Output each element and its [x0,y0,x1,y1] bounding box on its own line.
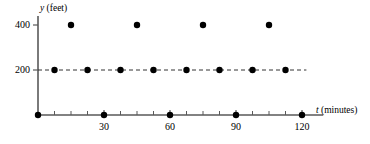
data-point [117,67,123,73]
data-point [216,67,222,73]
scatter-plot-figure: y (feet) t (minutes) 306090120200400 [0,0,370,144]
y-tick-label: 400 [8,20,30,30]
data-point [84,67,90,73]
data-point [35,112,41,118]
data-point [200,22,206,28]
data-point [183,67,189,73]
series-1 [51,67,288,73]
data-point [51,67,57,73]
x-tick-label: 30 [99,122,109,132]
data-point [282,67,288,73]
x-tick-label: 120 [295,122,310,132]
data-point [249,67,255,73]
data-point [101,112,107,118]
data-point [150,67,156,73]
x-axis-unit: (minutes) [321,105,357,115]
data-point [233,112,239,118]
data-point [299,112,305,118]
axes-group [37,16,323,116]
plot-canvas [0,0,370,144]
x-axis-label: t (minutes) [316,106,357,116]
x-tick-label: 60 [165,122,175,132]
y-axis-unit: (feet) [47,3,68,13]
data-point [266,22,272,28]
series-2 [68,22,272,28]
x-tick-label: 90 [231,122,241,132]
y-tick-label: 200 [8,65,30,75]
data-point [167,112,173,118]
data-point [68,22,74,28]
y-axis-label: y (feet) [40,4,67,14]
data-point [134,22,140,28]
